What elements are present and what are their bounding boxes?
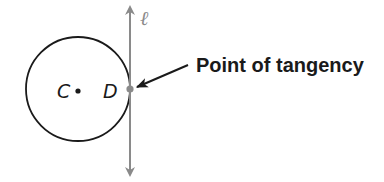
tangency-diagram: C D ℓ Point of tangency bbox=[0, 0, 384, 182]
center-label: C bbox=[57, 80, 71, 102]
line-label: ℓ bbox=[140, 6, 149, 30]
center-point bbox=[75, 88, 80, 93]
point-d-label: D bbox=[103, 80, 118, 102]
callout-label: Point of tangency bbox=[196, 54, 365, 76]
tangency-point bbox=[126, 85, 133, 92]
callout-arrow bbox=[137, 65, 188, 87]
